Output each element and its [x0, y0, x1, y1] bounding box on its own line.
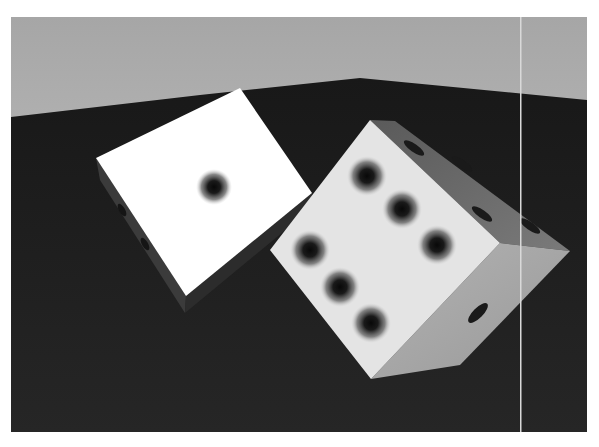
dice-photo — [11, 17, 587, 432]
left-die-pip — [196, 169, 232, 205]
right-die-pip — [382, 189, 422, 229]
right-die-pip — [290, 230, 330, 270]
right-die-pip — [320, 267, 360, 307]
right-die-pip — [347, 156, 387, 196]
vertical-line — [520, 17, 522, 432]
right-die-pip — [351, 303, 391, 343]
right-die-pip — [417, 225, 457, 265]
